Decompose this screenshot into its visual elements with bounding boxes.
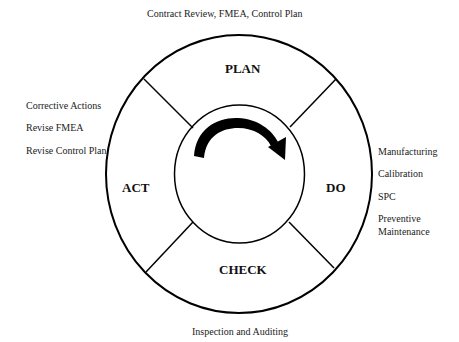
phase-do: DO: [326, 180, 346, 196]
do-annotation-3: SPC: [378, 191, 396, 203]
divider-lower-left: [146, 222, 193, 272]
clockwise-arrow-icon: [194, 118, 286, 160]
do-annotation-4: Preventive: [378, 213, 421, 225]
phase-check: CHECK: [219, 262, 267, 278]
phase-act: ACT: [122, 180, 149, 196]
divider-upper-left: [144, 79, 193, 128]
do-annotation-1: Manufacturing: [378, 146, 437, 158]
do-annotation-2: Calibration: [378, 168, 423, 180]
divider-upper-right: [290, 79, 336, 127]
check-annotation: Inspection and Auditing: [192, 326, 288, 338]
divider-lower-right: [289, 222, 334, 268]
act-annotation-2: Revise FMEA: [26, 122, 84, 134]
phase-plan: PLAN: [225, 61, 260, 77]
do-annotation-5: Maintenance: [378, 226, 430, 238]
act-annotation-1: Corrective Actions: [26, 100, 101, 112]
act-annotation-3: Revise Control Plan: [26, 145, 107, 157]
plan-annotation: Contract Review, FMEA, Control Plan: [147, 8, 302, 20]
